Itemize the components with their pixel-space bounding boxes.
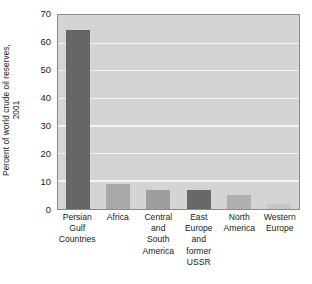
x-axis-tick-label: EastEuropeandformerUSSR — [179, 212, 220, 268]
x-axis-tick-label-line: Central — [139, 212, 179, 223]
x-axis-tick-label: PersianGulfCountries — [57, 212, 98, 246]
bar-slot — [259, 15, 299, 209]
plot-area — [57, 14, 300, 210]
x-axis-tick-label-line: East — [179, 212, 219, 223]
bar-slot — [138, 15, 178, 209]
bar[interactable] — [267, 204, 291, 210]
y-axis-tick-label: 40 — [41, 93, 51, 102]
x-axis-tick-label-line: Europe — [260, 223, 300, 234]
x-axis-tick-label-line: Persian — [58, 212, 98, 223]
y-axis-tick-label: 60 — [41, 37, 51, 46]
y-axis-title: Percent of world crude oil reserves, 200… — [0, 0, 22, 220]
y-axis-tick-label: 50 — [41, 65, 51, 74]
x-axis-tick-label-line: and — [179, 234, 219, 245]
x-axis-tick-label: WesternEurope — [260, 212, 301, 234]
y-axis-tick-labels: 010203040506070 — [24, 14, 54, 210]
x-axis-tick-label-line: North — [220, 212, 260, 223]
y-axis-tick-label: 10 — [41, 177, 51, 186]
x-axis-tick-labels: PersianGulfCountriesAfricaCentralandSout… — [57, 212, 300, 268]
bar-chart-figure: Percent of world crude oil reserves, 200… — [0, 0, 312, 284]
bar-series — [58, 15, 299, 209]
y-axis-title-line-1: Percent of world crude oil reserves, — [1, 44, 11, 176]
x-axis-tick-label-line: former — [179, 246, 219, 257]
bar[interactable] — [146, 190, 170, 209]
x-axis-tick-label-line: and — [139, 223, 179, 234]
bar[interactable] — [187, 190, 211, 209]
x-axis-tick-label-line: America — [139, 246, 179, 257]
bar[interactable] — [106, 184, 130, 209]
x-axis-tick-label: NorthAmerica — [219, 212, 260, 234]
y-axis-tick-label: 0 — [46, 205, 51, 214]
x-axis-tick-label-line: Gulf — [58, 223, 98, 234]
x-axis-tick-label-line: Western — [260, 212, 300, 223]
x-axis-tick-label-line: America — [220, 223, 260, 234]
x-axis-tick-label-line: Countries — [58, 234, 98, 245]
x-axis-tick-label-line: USSR — [179, 257, 219, 268]
bar[interactable] — [66, 30, 90, 209]
bar[interactable] — [227, 195, 251, 209]
x-axis-tick-label-line: Europe — [179, 223, 219, 234]
y-axis-tick-label: 30 — [41, 121, 51, 130]
bar-slot — [219, 15, 259, 209]
bar-slot — [98, 15, 138, 209]
bar-slot — [58, 15, 98, 209]
y-axis-tick-label: 70 — [41, 9, 51, 18]
y-axis-title-line-2: 2001 — [11, 44, 21, 176]
x-axis-tick-label-line: South — [139, 234, 179, 245]
x-axis-tick-label-line: Africa — [98, 212, 138, 223]
x-axis-tick-label: Africa — [98, 212, 139, 223]
x-axis-tick-label: CentralandSouthAmerica — [138, 212, 179, 257]
bar-slot — [179, 15, 219, 209]
y-axis-tick-label: 20 — [41, 149, 51, 158]
